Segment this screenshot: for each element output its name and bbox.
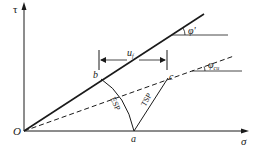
phi-cu-label-sub: cu	[214, 65, 220, 71]
phi-prime-arc	[183, 28, 185, 35]
effective-envelope-line	[24, 14, 204, 131]
origin-label: O	[13, 126, 21, 137]
sigma-axis-arrow-icon	[241, 129, 249, 134]
tau-axis-arrow-icon	[22, 2, 27, 10]
sigma-axis-label: σ	[241, 136, 246, 147]
uf-label-sub: f	[132, 53, 134, 59]
point-b-label: b	[93, 70, 98, 80]
tsp-line	[134, 78, 168, 131]
tau-axis-label: τ	[13, 4, 17, 15]
phi-prime-label: φ'	[188, 26, 196, 36]
phi-cu-label: φcu	[208, 60, 219, 71]
point-a-label: a	[131, 134, 136, 144]
uf-label: uf	[127, 48, 134, 59]
total-envelope-line	[24, 56, 234, 131]
diagram-graphics	[0, 0, 260, 150]
phi-cu-arc	[204, 67, 205, 72]
stress-path-diagram: τ σ O b a c uf φ' φcu ESP TSP	[0, 0, 260, 150]
point-c-label: c	[169, 72, 173, 82]
